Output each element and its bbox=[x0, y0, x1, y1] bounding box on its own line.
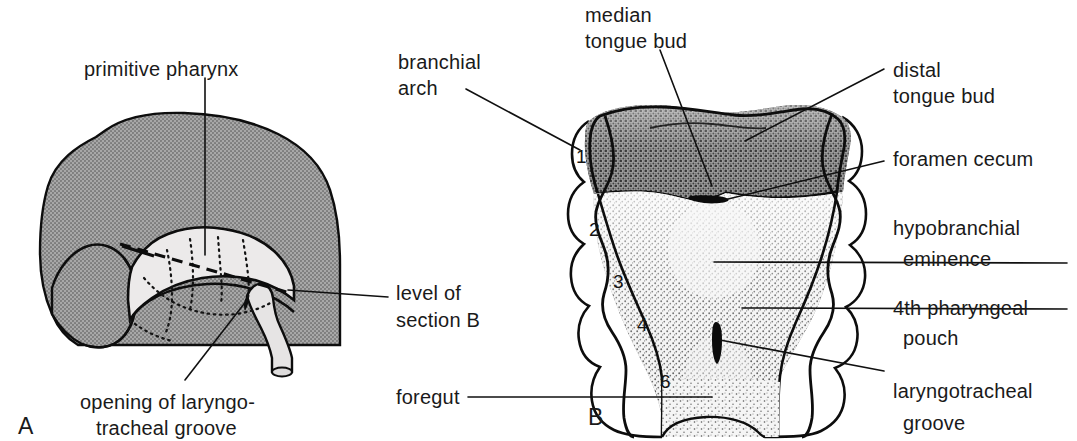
label-level-of-section-b-line2: section B bbox=[396, 309, 480, 331]
label-foregut: foregut bbox=[396, 386, 460, 408]
panel-b-letter: B bbox=[588, 404, 603, 430]
label-opening-laryngotracheal-line1: opening of laryngo- bbox=[80, 391, 255, 413]
arch-number-6: 6 bbox=[660, 371, 671, 392]
label-median-tongue-bud-line2: tongue bud bbox=[585, 30, 687, 52]
label-branchial-arch-line1: branchial bbox=[398, 51, 481, 73]
label-branchial-arch-line2: arch bbox=[398, 77, 438, 99]
foregut-column bbox=[662, 378, 780, 437]
label-distal-tongue-bud-line2: tongue bud bbox=[893, 85, 995, 107]
label-hypobranchial-eminence-line1: hypobranchial bbox=[893, 217, 1020, 239]
leader-hypobranchial-eminence bbox=[714, 262, 1067, 263]
label-primitive-pharynx: primitive pharynx bbox=[84, 58, 239, 80]
label-laryngotracheal-groove-line1: laryngotracheal bbox=[893, 380, 1033, 402]
arch-number-3: 3 bbox=[613, 271, 624, 292]
tube-lumen bbox=[272, 368, 292, 377]
arch-number-4: 4 bbox=[637, 314, 648, 335]
arch-number-2: 2 bbox=[589, 219, 600, 240]
label-4th-pharyngeal-pouch-line2: pouch bbox=[903, 327, 959, 349]
tongue-bud-region bbox=[580, 100, 860, 205]
label-4th-pharyngeal-pouch-line1: 4th pharyngeal bbox=[893, 297, 1028, 319]
label-laryngotracheal-groove-line2: groove bbox=[903, 412, 965, 434]
label-hypobranchial-eminence-line2: eminence bbox=[903, 248, 991, 270]
label-level-of-section-b-line1: level of bbox=[396, 282, 461, 304]
label-distal-tongue-bud-line1: distal bbox=[893, 59, 941, 81]
label-opening-laryngotracheal-line2: tracheal groove bbox=[96, 417, 237, 439]
label-foramen-cecum: foramen cecum bbox=[893, 148, 1033, 170]
panel-a-letter: A bbox=[18, 413, 34, 439]
anatomy-figure: primitive pharynx level of section B ope… bbox=[0, 0, 1077, 441]
label-median-tongue-bud-line1: median bbox=[585, 4, 652, 26]
